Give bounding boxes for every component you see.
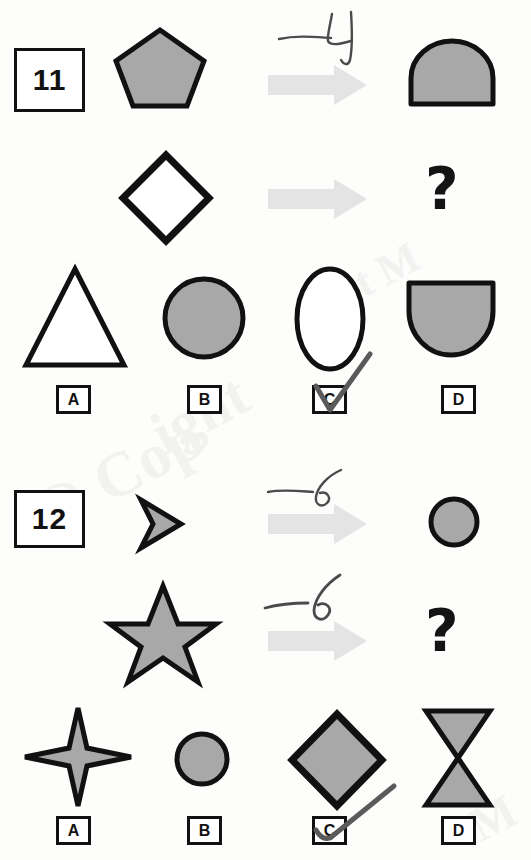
question-number-box-12: 12 [14, 490, 85, 548]
option-shape-diamond-filled [286, 709, 388, 811]
watermark-text: ight [140, 361, 261, 469]
transition-arrow-icon [268, 503, 368, 545]
option-letter-box-a[interactable]: A [56, 816, 91, 845]
question-number-box-11: 11 [14, 48, 85, 112]
option-letter-box-d[interactable]: D [441, 385, 476, 414]
option-letter-box-c[interactable]: C [312, 385, 347, 414]
option-shape-triangle-outline [20, 264, 130, 372]
shape-chevron [136, 496, 186, 552]
option-letter-box-b[interactable]: B [187, 816, 222, 845]
option-shape-hourglass-filled [421, 707, 495, 809]
transition-arrow-icon [268, 64, 368, 106]
option-letter-box-c[interactable]: C [312, 816, 347, 845]
option-letter-label: C [324, 822, 336, 840]
transition-arrow-icon [268, 620, 368, 662]
option-letter-box-a[interactable]: A [56, 385, 91, 414]
option-letter-box-d[interactable]: D [441, 816, 476, 845]
shape-diamond-outline [118, 150, 214, 246]
option-shape-circle-filled [161, 275, 247, 361]
shape-dome [406, 38, 498, 110]
answer-placeholder-question-mark: ? [425, 602, 459, 660]
question-number-label: 11 [33, 63, 67, 97]
shape-star-5 [108, 582, 218, 686]
shape-circle-small-filled [427, 495, 481, 549]
option-letter-label: C [324, 391, 336, 409]
answer-placeholder-question-mark: ? [425, 160, 459, 218]
option-letter-label: D [453, 391, 465, 409]
option-shape-star-4 [22, 705, 134, 809]
test-page: ight @ Cop ht M M 11 [0, 0, 531, 860]
option-shape-ellipse-outline [293, 264, 367, 374]
option-letter-label: B [199, 391, 211, 409]
option-letter-label: D [453, 822, 465, 840]
option-shape-circle-small-filled [173, 730, 231, 788]
shape-pentagon [112, 26, 208, 110]
option-letter-label: A [68, 822, 80, 840]
question-number-label: 12 [32, 502, 67, 536]
option-letter-label: B [199, 822, 211, 840]
transition-arrow-icon [268, 178, 368, 220]
option-shape-dome-down [404, 278, 498, 360]
option-letter-box-b[interactable]: B [187, 385, 222, 414]
option-letter-label: A [68, 391, 80, 409]
